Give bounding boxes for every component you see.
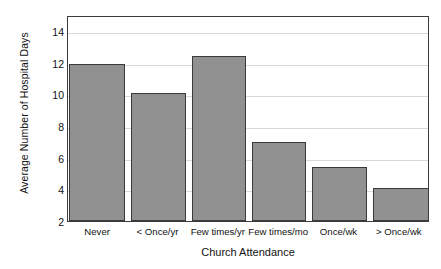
x-tick-label: > Once/wk (376, 226, 422, 237)
y-tick-label: 10 (34, 89, 64, 101)
bar (252, 142, 306, 221)
x-axis-title: Church Attendance (67, 246, 429, 258)
x-tick-label: < Once/yr (137, 226, 179, 237)
x-tick-label: Once/wk (320, 226, 357, 237)
x-axis-tick-labels: Never< Once/yrFew times/yrFew times/moOn… (67, 226, 429, 242)
plot-area (67, 16, 429, 222)
y-tick-label: 4 (34, 184, 64, 196)
bar-series (68, 17, 428, 221)
y-axis-title: Average Number of Hospital Days (18, 8, 30, 218)
y-tick-label: 8 (34, 121, 64, 133)
x-tick-label: Few times/yr (191, 226, 245, 237)
y-tick-label: 6 (34, 153, 64, 165)
bar (373, 188, 429, 221)
bar (312, 167, 366, 221)
bar (192, 56, 246, 221)
x-tick-label: Never (84, 226, 110, 237)
y-axis-tick-labels: 2468101214 (34, 0, 64, 269)
x-tick-label: Few times/mo (248, 226, 308, 237)
y-tick-label: 2 (34, 216, 64, 228)
bar (69, 64, 125, 221)
bar-chart-figure: Average Number of Hospital Days 24681012… (0, 0, 441, 269)
bar (131, 93, 185, 221)
y-tick-label: 12 (34, 58, 64, 70)
y-tick-label: 14 (34, 26, 64, 38)
